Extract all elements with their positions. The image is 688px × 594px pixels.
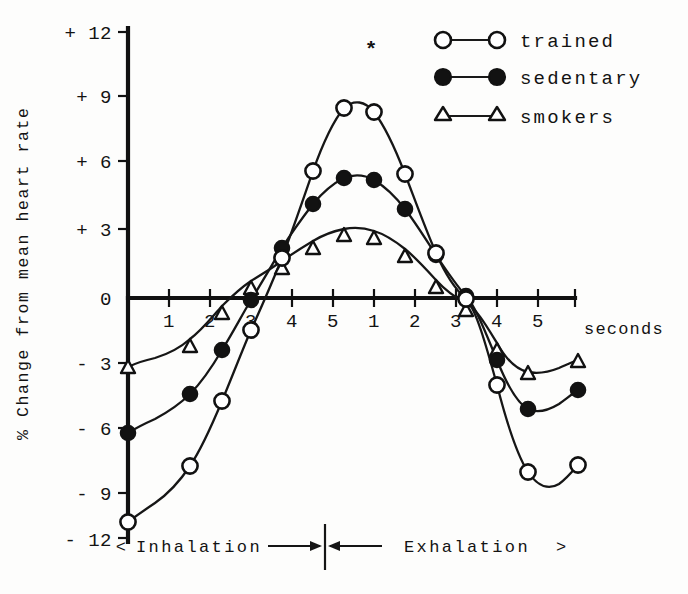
y-axis (118, 28, 128, 542)
significance-asterisk: * (365, 39, 378, 62)
legend-item-smokers[interactable]: smokers (435, 107, 615, 129)
heart-rate-line-chart: + 12 + 9 + 6 + 3 0 - 3 - 6 - 9 - 12 1 2 … (0, 0, 688, 594)
y-tick-label: + 12 (64, 23, 112, 45)
open-triangle-icon (489, 107, 505, 120)
y-tick-label: - 12 (64, 530, 112, 552)
y-tick-labels: + 12 + 9 + 6 + 3 0 - 3 - 6 - 9 - 12 (64, 23, 112, 552)
x-tick-label: 2 (409, 311, 421, 333)
legend-label: sedentary (520, 68, 642, 90)
legend-label: smokers (520, 107, 615, 129)
y-tick-label: + 3 (76, 220, 112, 242)
exhalation-label: Exhalation (404, 538, 530, 557)
chart-legend: trained sedentary smokers (435, 31, 642, 129)
x-axis (128, 289, 575, 307)
legend-item-sedentary[interactable]: sedentary (435, 68, 642, 90)
x-tick-label: 4 (491, 311, 503, 333)
phase-divider-icon (268, 524, 382, 570)
filled-circle-icon (489, 69, 505, 85)
y-tick-label: 0 (100, 289, 112, 311)
x-tick-label: 4 (286, 311, 298, 333)
x-tick-label: 5 (327, 311, 339, 333)
breathing-phase-bar: < Inhalation Exhalation > (116, 524, 569, 570)
inhalation-label: Inhalation (136, 538, 262, 557)
x-tick-label: 5 (532, 311, 544, 333)
x-axis-units-label: seconds (584, 320, 664, 339)
chart-figure: + 12 + 9 + 6 + 3 0 - 3 - 6 - 9 - 12 1 2 … (0, 0, 688, 594)
x-tick-label: 1 (163, 311, 175, 333)
open-circle-icon (489, 32, 505, 48)
y-tick-label: - 3 (76, 354, 112, 376)
y-axis-title: % Change from mean heart rate (14, 106, 33, 440)
inhalation-arrow-icon: < (116, 538, 129, 557)
x-tick-label: 1 (368, 311, 380, 333)
y-tick-label: - 9 (76, 484, 112, 506)
legend-label: trained (520, 31, 615, 53)
y-tick-label: - 6 (76, 419, 112, 441)
markers-trained (120, 100, 585, 529)
legend-item-trained[interactable]: trained (435, 31, 615, 53)
markers-sedentary (121, 171, 585, 440)
y-tick-label: + 9 (76, 87, 112, 109)
open-circle-icon (435, 32, 451, 48)
open-triangle-icon (435, 107, 451, 120)
exhalation-arrow-icon: > (556, 538, 569, 557)
filled-circle-icon (435, 69, 451, 85)
y-tick-label: + 6 (76, 152, 112, 174)
markers-smokers (121, 228, 585, 379)
